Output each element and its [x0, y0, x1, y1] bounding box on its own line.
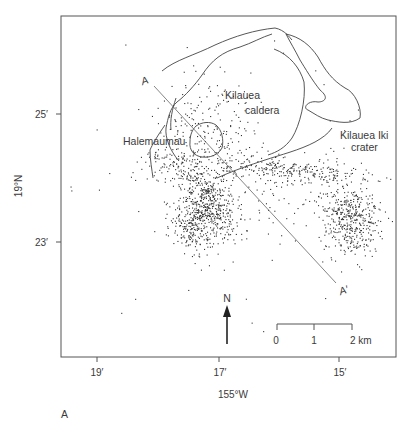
x-tick-label-17: 17′	[214, 367, 227, 378]
halemaumau-label: Halemaumau	[123, 135, 186, 147]
scale-bar-label-0: 0	[273, 335, 279, 346]
panel-label: A	[61, 408, 68, 420]
caldera-east-wall	[268, 49, 304, 155]
place-labels: Kilauea caldera Halemaumau Kilauea Iki c…	[123, 89, 388, 153]
y-tick-label-25: 25′	[35, 109, 48, 120]
west-scarp-1	[171, 98, 176, 130]
caldera-outlines	[150, 28, 360, 178]
caldera-inner-arc	[202, 34, 272, 75]
kilauea-caldera-label-line1: Kilauea	[225, 89, 260, 101]
y-axis-title: 19°N	[13, 175, 24, 197]
x-axis-title: 155°W	[218, 389, 249, 400]
kilauea-iki-label-line2: crater	[351, 141, 378, 153]
y-tick-label-23: 23′	[35, 237, 48, 248]
north-arrow: N	[223, 292, 231, 344]
kilauea-iki-outline	[286, 34, 360, 122]
x-tick-label-19: 19′	[91, 367, 104, 378]
profile-end-label: A′	[336, 282, 350, 297]
map-frame	[61, 16, 396, 357]
seismicity-map: 25′ 23′ 19°N 19′ 17′ 15′ 155°W A	[0, 0, 409, 433]
x-axis: 19′ 17′ 15′ 155°W	[91, 357, 347, 400]
caldera-outer-rim	[162, 28, 292, 71]
kilauea-iki-label-line1: Kilauea Iki	[340, 129, 388, 141]
north-arrow-head-icon	[223, 305, 231, 317]
kilauea-caldera-label-line2: caldera	[245, 104, 280, 116]
scale-bar-label-1: 1	[311, 335, 317, 346]
halemaumau-pit	[190, 122, 223, 157]
scale-bar-label-2km: 2 km	[350, 335, 372, 346]
west-scarp-2	[150, 125, 165, 178]
y-axis: 25′ 23′ 19°N	[13, 109, 61, 248]
scale-bar: 0 1 2 km	[273, 324, 371, 346]
profile-start-label: A	[138, 73, 150, 87]
x-tick-label-15: 15′	[334, 367, 347, 378]
north-arrow-label: N	[223, 292, 231, 304]
